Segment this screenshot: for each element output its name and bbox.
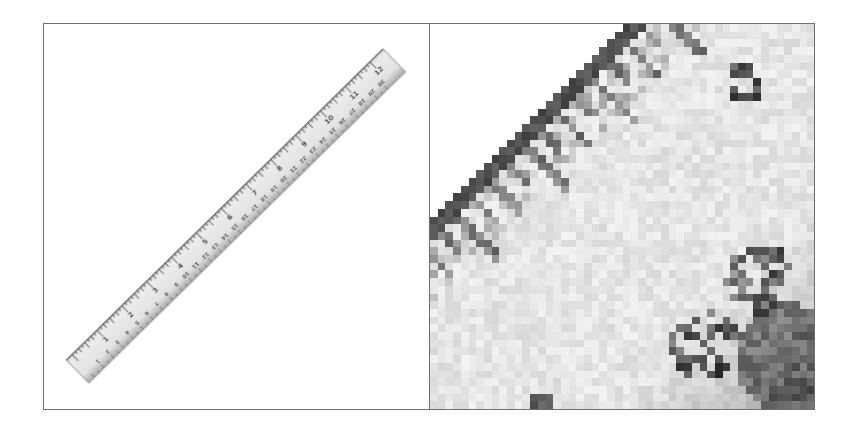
panel-closeup bbox=[430, 24, 814, 409]
panel-full-ruler: 123456789101112 123456789101112131415161… bbox=[44, 24, 429, 409]
ruler: 123456789101112 123456789101112131415161… bbox=[66, 49, 405, 383]
ruler-closeup-image bbox=[430, 24, 814, 409]
ruler-image: 123456789101112 123456789101112131415161… bbox=[44, 24, 429, 409]
